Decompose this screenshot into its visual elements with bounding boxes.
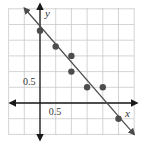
labels: 0.5 0.5 x y bbox=[23, 7, 130, 119]
data-point bbox=[100, 84, 106, 90]
data-point bbox=[115, 116, 121, 122]
data-point bbox=[84, 84, 90, 90]
scatter-chart: 0.5 0.5 x y bbox=[0, 0, 141, 143]
data-point bbox=[68, 68, 74, 74]
y-tick-label: 0.5 bbox=[23, 76, 36, 87]
x-axis-label: x bbox=[124, 107, 130, 119]
data-point bbox=[37, 28, 43, 34]
data-point bbox=[53, 43, 59, 49]
data-point bbox=[68, 53, 74, 59]
y-axis-label: y bbox=[44, 7, 50, 19]
x-tick-label: 0.5 bbox=[49, 106, 62, 117]
